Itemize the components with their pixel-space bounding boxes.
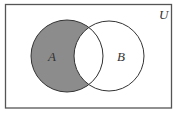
venn-diagram: A B U: [0, 0, 174, 114]
set-a-label: A: [47, 49, 56, 64]
universe-label: U: [159, 7, 170, 22]
set-b-label: B: [117, 49, 125, 64]
